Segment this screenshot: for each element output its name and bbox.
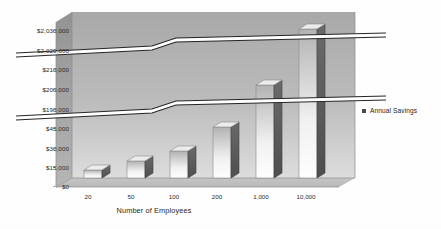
- x-tick-label-200: 200: [212, 193, 222, 200]
- bar-1000: [256, 80, 282, 178]
- bar-50: [127, 156, 153, 178]
- x-tick-label-100: 100: [169, 193, 179, 200]
- y-tick-label-2020000: $2,020,000: [37, 47, 69, 54]
- x-tick-label-10000: 10,000: [297, 193, 316, 200]
- legend: Annual Savings: [362, 107, 417, 114]
- bar-200: [213, 122, 239, 178]
- chart-screenshot: $2,030,000 $2,020,000 $210,000 $200,000 …: [0, 0, 441, 229]
- bar-chart: $2,030,000 $2,020,000 $210,000 $200,000 …: [0, 0, 441, 229]
- y-tick-label-30000: $30,000: [46, 145, 69, 152]
- y-tick-label-210000: $210,000: [42, 66, 69, 73]
- y-tick-label-2030000: $2,030,000: [37, 27, 69, 34]
- x-tick-label-1000: 1,000: [253, 193, 268, 200]
- x-tick-label-50: 50: [128, 193, 135, 200]
- x-axis-title-text: Number of Employees: [116, 206, 191, 215]
- plot-floor: [56, 178, 355, 187]
- bar-100: [170, 146, 196, 178]
- legend-swatch-icon: [362, 109, 366, 113]
- x-tick-label-20: 20: [85, 193, 92, 200]
- y-tick-label-0: $0: [62, 183, 69, 190]
- y-tick-label-200000: $200,000: [42, 86, 69, 93]
- plot-left-wall: [56, 12, 72, 187]
- x-axis-title: Number of Employees: [0, 206, 441, 215]
- y-tick-label-15000: $15,000: [46, 164, 69, 171]
- y-tick-label-190000: $190,000: [42, 106, 69, 113]
- y-tick-label-45000: $45,000: [46, 125, 69, 132]
- legend-label-annual-savings: Annual Savings: [370, 107, 417, 114]
